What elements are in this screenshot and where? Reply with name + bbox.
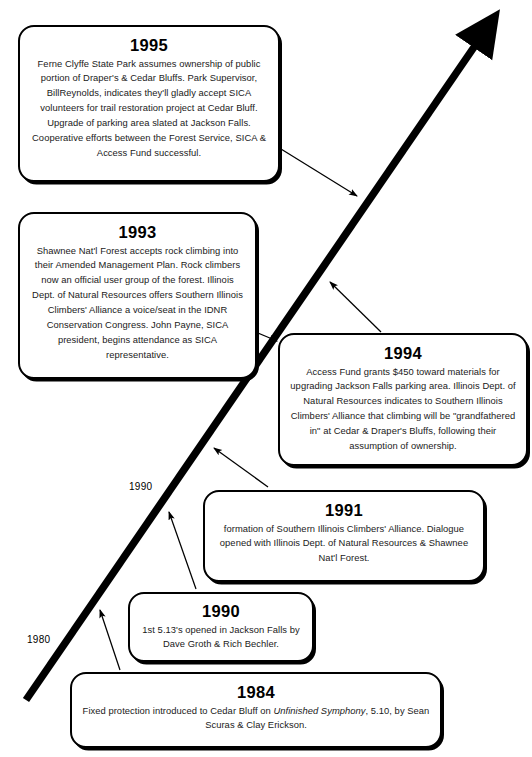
event-box-1993[interactable]: 1993 Shawnee Nat'l Forest accepts rock c…: [18, 212, 257, 379]
event-box-1984[interactable]: 1984 Fixed protection introduced to Ceda…: [70, 672, 442, 748]
connector-1990: [169, 512, 196, 589]
event-box-1991[interactable]: 1991 formation of Southern Illinois Clim…: [203, 490, 485, 582]
event-body-1984: Fixed protection introduced to Cedar Blu…: [81, 704, 431, 734]
event-year-1993: 1993: [29, 222, 246, 243]
event-body-1993: Shawnee Nat'l Forest accepts rock climbi…: [29, 244, 246, 363]
event-box-1990[interactable]: 1990 1st 5.13's opened in Jackson Falls …: [128, 592, 314, 662]
axis-tick-label-1990: 1990: [129, 481, 152, 492]
axis-tick-label-1980: 1980: [27, 634, 50, 645]
event-year-1995: 1995: [29, 35, 269, 56]
timeline-diagram: 1990 1980 1995 Ferne Clyffe State Park a…: [0, 0, 532, 757]
event-box-1994[interactable]: 1994 Access Fund grants $450 toward mate…: [278, 333, 528, 466]
event-body-1984-part1: Fixed protection introduced to Cedar Blu…: [83, 705, 274, 716]
event-year-1984: 1984: [81, 682, 431, 703]
event-body-1984-title: Unfinished Symphony: [273, 705, 365, 716]
event-body-1994: Access Fund grants $450 toward materials…: [289, 365, 517, 454]
event-box-1995[interactable]: 1995 Ferne Clyffe State Park assumes own…: [18, 25, 280, 182]
connector-1991: [214, 448, 268, 487]
event-body-1991: formation of Southern Illinois Climbers'…: [214, 522, 474, 567]
event-year-1994: 1994: [289, 343, 517, 364]
connector-1995: [281, 149, 357, 196]
event-body-1995: Ferne Clyffe State Park assumes ownershi…: [29, 57, 269, 161]
connector-1984: [100, 610, 120, 670]
connector-1994: [330, 282, 381, 332]
event-year-1990: 1990: [139, 601, 303, 622]
event-year-1991: 1991: [214, 500, 474, 521]
event-body-1990: 1st 5.13's opened in Jackson Falls by Da…: [139, 623, 303, 653]
